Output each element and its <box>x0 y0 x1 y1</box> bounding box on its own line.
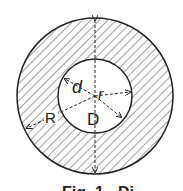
label-D: D <box>87 110 99 129</box>
annulus-diagram: d r R D Fig. 1 - Di <box>0 0 183 191</box>
caption: Fig. 1 - Di <box>62 184 134 191</box>
label-d: d <box>72 77 83 97</box>
label-r: r <box>98 86 104 103</box>
label-R: R <box>45 109 56 126</box>
